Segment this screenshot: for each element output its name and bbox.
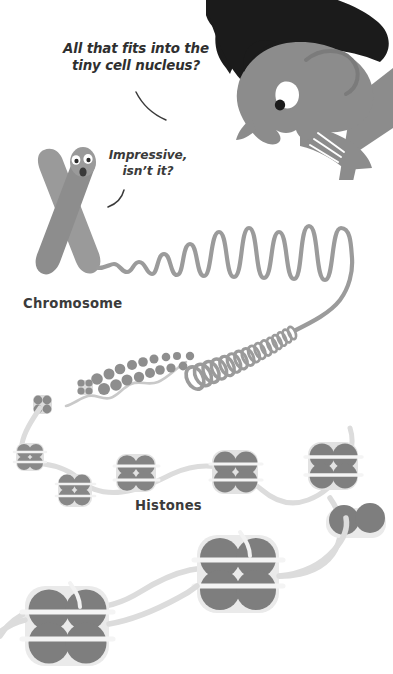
chromatin-wave (98, 226, 352, 330)
beads-on-string-small (33, 352, 194, 414)
speech-bubble-impressive: Impressive, isn’t it? (100, 148, 196, 179)
eye-pupil (275, 100, 285, 111)
solenoid-coil (183, 326, 298, 392)
histone-large-2 (22, 583, 113, 666)
histone-cluster-tiny-1 (77, 379, 93, 395)
pointer-line-nucleus (136, 92, 166, 120)
illustration-page: All that fits into the tiny cell nucleus… (0, 0, 393, 674)
histone-medium-3 (114, 454, 159, 492)
chromosome-character (36, 147, 101, 274)
label-histones: Histones (135, 498, 202, 515)
histone-large-3 (326, 503, 386, 538)
person-head (204, 0, 393, 186)
dna-linker-left-edge (0, 620, 25, 632)
histone-large-1 (194, 532, 283, 613)
dna-packaging-illustration (0, 0, 393, 674)
histone-medium-4 (210, 450, 262, 494)
dna-linker-bottom (109, 586, 197, 624)
pointer-line-impressive (108, 190, 124, 207)
label-chromosome: Chromosome (23, 296, 123, 313)
chromosome-pupil-right (86, 158, 90, 163)
histone-medium-2 (56, 474, 95, 507)
chromosome-mouth (79, 167, 86, 176)
speech-bubble-nucleus: All that fits into the tiny cell nucleus… (62, 40, 210, 74)
histone-medium-5 (305, 442, 362, 490)
histone-medium-1 (14, 443, 46, 471)
chromosome-pupil-left (74, 159, 78, 164)
